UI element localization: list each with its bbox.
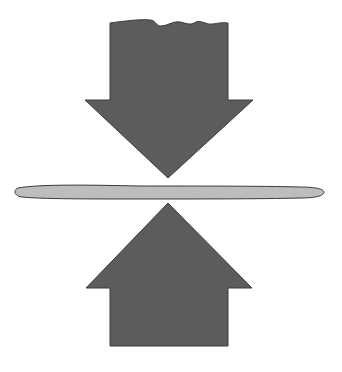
up-arrow-icon xyxy=(86,203,252,346)
compression-diagram xyxy=(0,0,342,372)
down-arrow-icon xyxy=(85,20,253,178)
center-bar xyxy=(15,185,324,199)
